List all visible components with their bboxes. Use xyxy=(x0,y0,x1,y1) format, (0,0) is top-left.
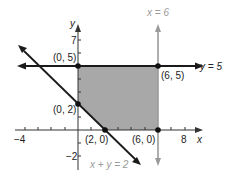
y-tick-label-neg2: −2 xyxy=(66,151,78,162)
point-label-2-0: (2, 0) xyxy=(85,134,108,145)
arrow-down-icon xyxy=(155,158,161,166)
arrow-left-icon xyxy=(17,63,26,70)
x-axis-label: x xyxy=(196,134,203,145)
y-tick-label-7: 7 xyxy=(71,35,77,46)
point-label-6-5: (6, 5) xyxy=(161,70,184,81)
point-2-0 xyxy=(102,127,108,133)
line-label-x-plus-y-equals-2: x + y = 2 xyxy=(89,159,129,170)
x-axis-arrow-icon xyxy=(195,127,203,133)
graph: y 7 −2 −4 8 x (0, 5) (6, 5) (0, 2) (2, 0… xyxy=(0,0,231,181)
point-6-5 xyxy=(155,63,161,69)
point-label-6-0: (6, 0) xyxy=(132,134,155,145)
shaded-region xyxy=(78,66,158,130)
point-0-5 xyxy=(75,63,81,69)
y-axis-label: y xyxy=(69,18,76,29)
arrow-up-icon xyxy=(155,24,161,32)
point-label-0-2: (0, 2) xyxy=(53,104,76,115)
point-label-0-5: (0, 5) xyxy=(53,52,76,63)
point-6-0 xyxy=(155,127,161,133)
y-axis-arrow-icon xyxy=(75,24,81,32)
line-label-y-equals-5: y = 5 xyxy=(199,61,222,72)
line-label-x-equals-6: x = 6 xyxy=(146,7,169,18)
x-tick-label-8: 8 xyxy=(181,134,187,145)
x-tick-label-neg4: −4 xyxy=(14,134,26,145)
